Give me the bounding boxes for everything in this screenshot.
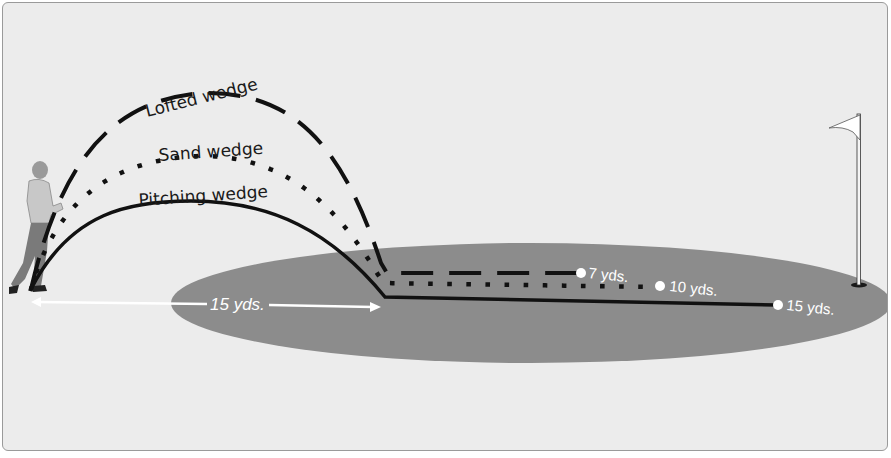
- diagram-frame: 7 yds. 10 yds. 15 yds. 15 yds. Lofted we…: [2, 2, 888, 451]
- label-sand-wedge: Sand wedge: [158, 138, 264, 165]
- ball-icon: [773, 300, 783, 310]
- golf-diagram: 7 yds. 10 yds. 15 yds. 15 yds. Lofted we…: [3, 3, 887, 450]
- ball-icon: [576, 268, 586, 278]
- label-lofted-wedge: Lofted wedge: [143, 74, 259, 121]
- carry-distance-label: 15 yds.: [210, 295, 265, 314]
- ball-icon: [655, 281, 665, 291]
- flag-icon: [829, 114, 867, 288]
